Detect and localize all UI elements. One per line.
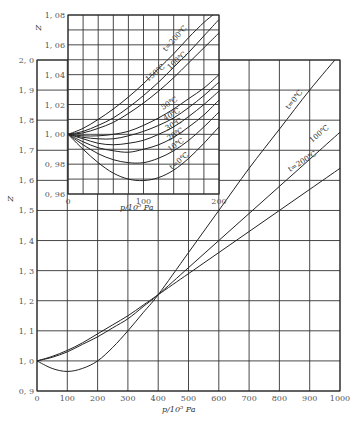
curve-label: 100℃ [308,123,331,144]
x-tick-label: 0 [65,197,70,206]
x-tick-label: 800 [272,394,287,403]
x-tick-label: 200 [90,394,105,403]
y-tick-label: 1, 3 [19,267,34,276]
y-tick-label: 1, 2 [19,297,34,306]
y-tick-label: 0, 9 [19,387,34,396]
y-tick-label: 1, 06 [45,41,65,50]
y-tick-label: 1, 8 [19,116,34,125]
inset-x-axis-label: p/10⁵ Pa [120,203,154,212]
x-tick-label: 500 [181,394,196,403]
y-tick-label: 1, 5 [19,206,34,215]
x-tick-label: 600 [211,394,226,403]
curve-label: t=0℃ [283,88,304,111]
x-tick-label: 400 [151,394,166,403]
compressibility-chart: 010020030040050060070080090010000, 91, 0… [0,0,359,421]
y-tick-label: 1, 00 [45,130,65,139]
y-tick-label: 0, 98 [45,160,65,169]
x-tick-label: 200 [211,197,226,206]
y-tick-label: 1, 7 [19,146,34,155]
y-tick-label: 1, 0 [19,357,34,366]
curve-label: t=200℃ [286,149,318,174]
y-tick-label: 1, 6 [19,176,34,185]
y-tick-label: 1, 4 [19,237,34,246]
y-tick-label: 0, 96 [45,190,65,199]
y-tick-label: 1, 9 [19,86,34,95]
x-tick-label: 1000 [330,394,350,403]
y-tick-label: 1, 08 [45,11,65,20]
x-tick-label: 900 [302,394,317,403]
x-tick-label: 0 [34,394,39,403]
x-tick-label: 100 [60,394,75,403]
y-tick-label: 1, 1 [19,327,34,336]
y-tick-label: 1, 02 [45,101,65,110]
y-tick-label: 1, 04 [45,71,65,80]
main-y-axis-label: Z [6,195,15,202]
main-x-axis-label: p/10⁵ Pa [162,405,196,414]
x-tick-label: 300 [120,394,135,403]
x-tick-label: 700 [241,394,256,403]
y-tick-label: 2, 0 [19,56,34,65]
inset-y-axis-label: Z [34,24,43,31]
